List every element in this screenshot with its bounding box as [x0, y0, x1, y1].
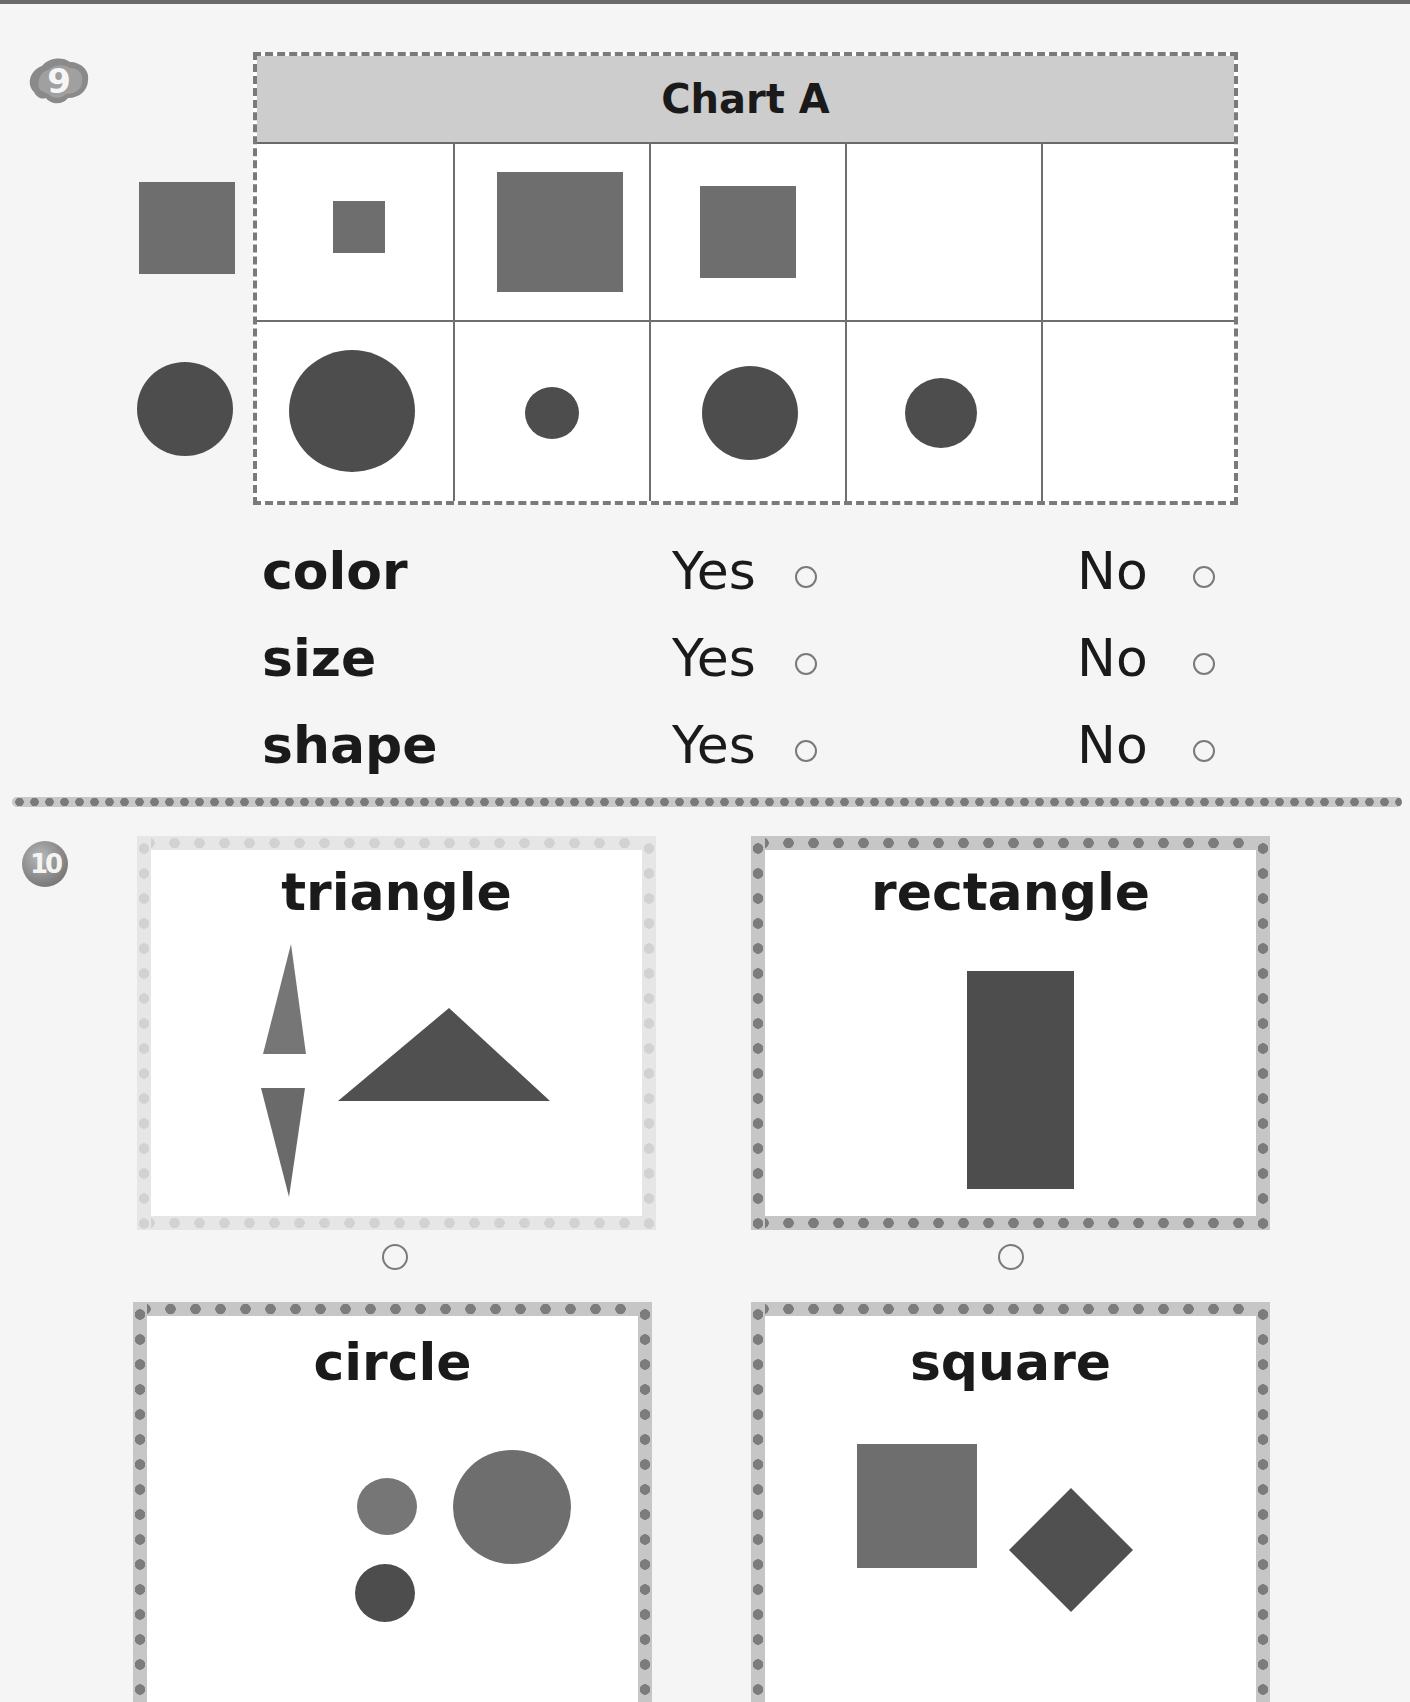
question-color-no-label: No: [1077, 545, 1148, 597]
large-circle: [289, 350, 415, 472]
chart-title: Chart A: [257, 56, 1234, 144]
card-border: [751, 836, 1270, 850]
medium-square: [700, 186, 796, 278]
question-shape-yes-radio[interactable]: [795, 740, 817, 762]
card-rectangle[interactable]: rectangle: [751, 836, 1270, 1230]
page-top-edge: [0, 0, 1410, 4]
small-medium-circle: [905, 378, 977, 448]
question-shape-no-label: No: [1077, 719, 1148, 771]
card-circle[interactable]: circle: [133, 1302, 652, 1702]
question-size-no-radio[interactable]: [1193, 653, 1215, 675]
problem-9-number: 9: [26, 54, 92, 108]
problem-10-number: 10: [30, 849, 60, 879]
problem-10-badge: 10: [22, 841, 68, 887]
small-circle-light: [357, 1478, 417, 1535]
question-shape-label: shape: [262, 719, 438, 771]
question-color-yes-label: Yes: [672, 545, 756, 597]
diamond-square: [751, 1302, 1270, 1702]
small-square: [333, 201, 385, 253]
large-circle: [453, 1450, 571, 1564]
question-size-yes-label: Yes: [672, 632, 756, 684]
card-border: [133, 1302, 652, 1316]
question-size-label: size: [262, 632, 376, 684]
tall-rectangle: [967, 971, 1074, 1189]
row-label-square: [139, 182, 235, 274]
question-size-yes-radio[interactable]: [795, 653, 817, 675]
question-color-label: color: [262, 545, 408, 597]
medium-circle: [702, 366, 798, 460]
question-shape-no-radio[interactable]: [1193, 740, 1215, 762]
card-square[interactable]: square: [751, 1302, 1270, 1702]
chart-a-table: Chart A: [253, 52, 1238, 505]
card-triangle[interactable]: triangle: [137, 836, 656, 1230]
card-title: circle: [133, 1336, 652, 1388]
card-border: [751, 1216, 1270, 1230]
dotted-divider: [12, 797, 1402, 807]
small-circle-dark: [355, 1564, 415, 1622]
grid-line: [257, 320, 1234, 322]
problem-9-badge: 9: [26, 54, 92, 108]
card-rectangle-radio[interactable]: [998, 1244, 1024, 1270]
question-color-yes-radio[interactable]: [795, 566, 817, 588]
large-square: [497, 172, 623, 292]
triangle-shapes: [137, 836, 656, 1230]
question-color-no-radio[interactable]: [1193, 566, 1215, 588]
small-circle: [525, 387, 579, 439]
card-triangle-radio[interactable]: [382, 1244, 408, 1270]
card-title: rectangle: [751, 866, 1270, 918]
question-size-no-label: No: [1077, 632, 1148, 684]
row-label-circle: [137, 362, 233, 456]
question-shape-yes-label: Yes: [672, 719, 756, 771]
